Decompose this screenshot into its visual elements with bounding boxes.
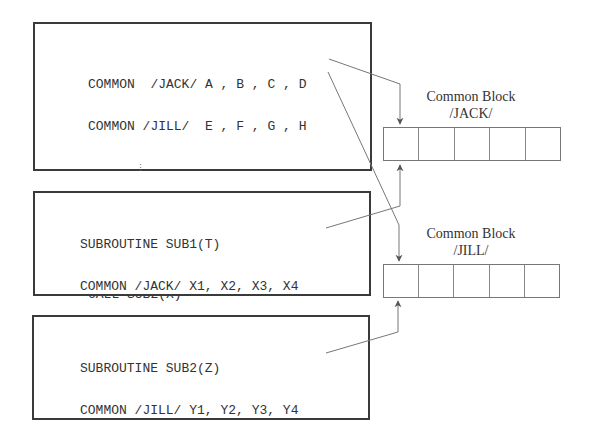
arrow-main-jack — [329, 59, 400, 124]
connector-arrows — [0, 0, 590, 445]
arrow-sub2-jill — [326, 301, 398, 353]
arrow-main-jill — [328, 72, 399, 261]
arrow-sub1-jack — [326, 165, 400, 228]
